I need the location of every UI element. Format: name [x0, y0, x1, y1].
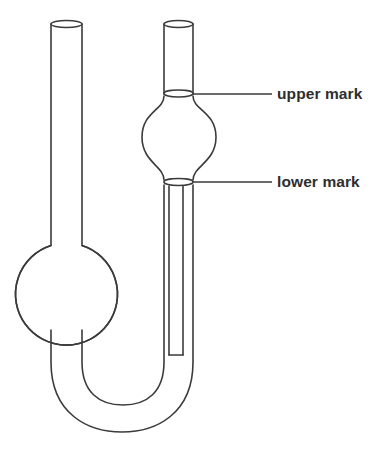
lower-mark-ring — [164, 179, 193, 186]
left-tube-rim-icon — [51, 20, 82, 27]
u-bend-outer-wall — [51, 185, 193, 432]
reservoir-bulb-outline — [16, 246, 118, 346]
viscometer-diagram: upper mark lower mark — [0, 0, 392, 452]
measuring-bulb-right-wall — [193, 96, 216, 180]
left-limb-outer-wall — [16, 24, 118, 345]
right-tube-rim-icon — [164, 20, 193, 27]
lower-mark-label: lower mark — [277, 174, 360, 190]
measuring-bulb-left-wall — [142, 96, 164, 180]
viscometer-drawing — [0, 0, 392, 452]
u-bend-inner-wall — [82, 185, 164, 405]
upper-mark-ring — [164, 90, 193, 97]
upper-mark-label: upper mark — [277, 86, 362, 102]
